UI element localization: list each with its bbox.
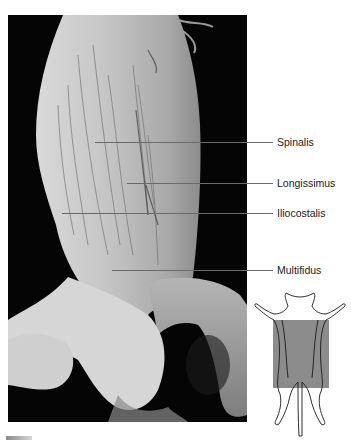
label-multifidus: Multifidus (277, 264, 321, 276)
multifidus-leader-line (112, 270, 273, 271)
cat-orientation-diagram (252, 290, 348, 438)
iliocostalis-leader-line (62, 213, 273, 214)
spinalis-leader-line (95, 142, 273, 143)
label-iliocostalis: Iliocostalis (277, 207, 325, 219)
label-spinalis: Spinalis (277, 136, 314, 148)
label-longissimus: Longissimus (277, 177, 335, 189)
footer-gradient-bar (6, 436, 32, 440)
muscle-tissue-illustration (8, 15, 247, 422)
dissection-photo (8, 15, 247, 422)
longissimus-leader-line (127, 183, 273, 184)
